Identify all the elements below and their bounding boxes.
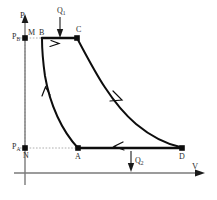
marker-A [75,145,81,151]
arrow-bc-right [50,41,59,47]
heat-label-q1-sub: 1 [63,10,66,16]
heat-label-q1-text: Q [57,6,63,15]
marker-C [74,35,80,41]
pv-cycle-figure: P V PB PA M B C N A D Q1 Q2 [0,0,217,200]
pressure-label-pb: PB [12,33,20,41]
guide-lines [20,38,80,148]
q1-arrowhead [57,29,63,38]
point-label-A: A [75,153,81,161]
heat-label-q2: Q2 [135,157,144,165]
marker-M [22,35,28,41]
point-label-N: N [23,152,29,160]
point-label-M: M [28,29,35,37]
point-label-C: C [76,26,81,34]
segment-ab-adiabat [42,39,78,148]
pressure-label-pb-sub: B [16,36,20,42]
q2-arrowhead [128,163,134,172]
pressure-label-pa-sub: A [16,146,20,152]
y-axis-label: P [20,11,25,20]
marker-D [179,145,185,151]
marker-N [22,145,28,151]
pressure-label-pa: PA [12,143,20,151]
point-markers [22,35,185,151]
heat-label-q2-text: Q [135,156,141,165]
segment-cd-adiabat [77,38,182,148]
cycle-path-group [42,38,182,148]
direction-arrows [42,41,124,151]
heat-label-q1: Q1 [57,7,66,15]
heat-label-q2-sub: 2 [141,160,144,166]
x-axis-label: V [192,162,198,171]
point-label-D: D [179,153,185,161]
point-label-B: B [39,29,44,37]
